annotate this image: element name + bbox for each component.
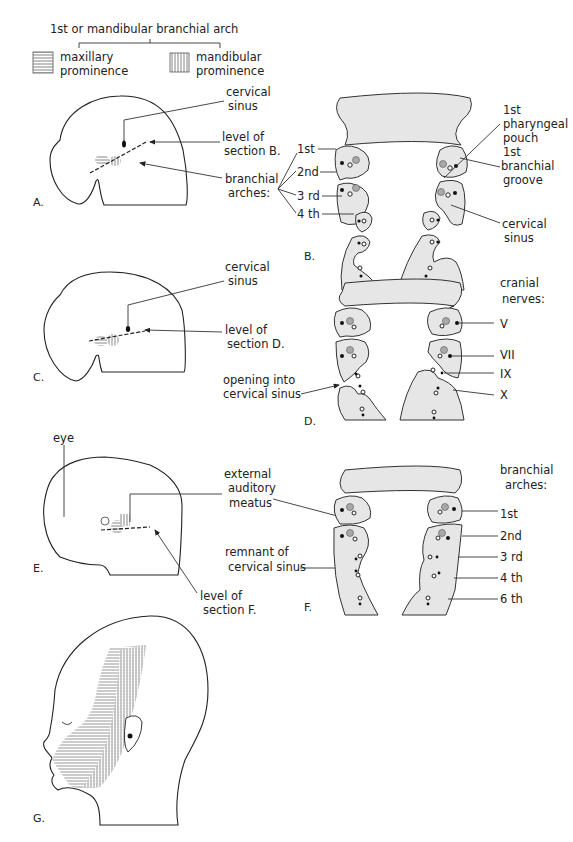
vessel-marker (358, 596, 362, 600)
panel-a-embryo: A. cervical sinus level of section B. br… (33, 85, 297, 213)
a-level-line2: section B. (224, 144, 281, 158)
nerve-marker (355, 373, 358, 376)
panel-d-section: D. cranial nerves: V VII IX X (304, 276, 545, 428)
nerve-marker (360, 275, 363, 278)
d-opening-line2: cervical sinus (223, 387, 301, 401)
mandibular-region-c (107, 334, 119, 346)
nerve-marker (340, 188, 344, 192)
d-opening-leader (301, 385, 339, 394)
c-level-line1: level of (225, 323, 268, 337)
nerve-marker (438, 572, 441, 575)
nerve-marker (359, 603, 362, 606)
f-arch-label: 1st (500, 507, 518, 521)
nerve-marker (436, 240, 439, 243)
vessel-marker (430, 240, 434, 244)
vessel-marker (352, 511, 356, 515)
vessel-marker (440, 324, 444, 328)
vessel-marker (428, 555, 432, 559)
d-nerve-label: X (500, 388, 508, 402)
ganglion-marker (440, 161, 447, 168)
nerve-marker (355, 558, 358, 561)
nerve-marker (448, 354, 452, 358)
f-arch-label: 3 rd (500, 550, 523, 564)
vessel-marker (448, 166, 452, 170)
legend-maxillary-line1: maxillary (60, 50, 113, 64)
e-meatus-line3: meatus (229, 496, 272, 510)
vessel-marker (431, 368, 435, 372)
e-level-line2: section F. (203, 603, 257, 617)
vessel-marker (352, 354, 356, 358)
b-groove-line3: groove (503, 173, 543, 187)
vessel-marker (426, 596, 430, 600)
ganglion-marker (438, 189, 445, 196)
ear-canal-g (128, 734, 133, 739)
legend-mandibular-line2: prominence (196, 64, 264, 78)
nerve-marker (357, 219, 360, 222)
ganglion-marker (353, 185, 360, 192)
a-arches-line2: arches: (228, 186, 270, 200)
b-pouch-line3: pouch (503, 131, 538, 145)
panel-b-section: B. 1st 2nd 3 rd 4 th 1st pharyngeal pouc… (297, 93, 568, 290)
legend-title: 1st or mandibular branchial arch (50, 22, 238, 36)
f-remnant-line2: cervical sinus (228, 560, 306, 574)
arches-fan-lines (278, 153, 297, 213)
panel-a-letter: A. (33, 196, 44, 209)
ganglion-marker (347, 504, 354, 511)
nerve-marker (436, 218, 439, 221)
nerve-marker (355, 570, 358, 573)
vessel-marker (432, 574, 436, 578)
b-pouch-line2: pharyngeal (503, 117, 568, 131)
b-top-mass (337, 93, 472, 145)
panel-f-letter: F. (304, 601, 312, 614)
panel-d-letter: D. (304, 415, 316, 428)
vessel-marker (348, 163, 352, 167)
vessel-marker (434, 391, 438, 395)
b-pouch-line1: 1st (503, 103, 521, 117)
nerve-marker (340, 508, 344, 512)
nerve-marker (453, 191, 457, 195)
nerve-marker (436, 556, 439, 559)
f-arch-label: 6 th (500, 592, 523, 606)
nerve-marker (452, 507, 456, 511)
c-level-line2: section D. (227, 337, 285, 351)
cervical-sinus-a (122, 141, 126, 148)
panel-g-head: G. (33, 616, 208, 825)
maxillary-swatch (33, 52, 53, 73)
d-opening-line1: opening into (223, 373, 295, 387)
e-meatus-line1: external (224, 467, 271, 481)
vessel-marker (362, 242, 366, 246)
vessel-marker (438, 354, 442, 358)
vessel-marker (348, 192, 352, 196)
f-arches-line2: arches: (505, 478, 547, 492)
b-arch-labels: 1st 2nd 3 rd 4 th (297, 142, 320, 221)
vessel-marker (353, 537, 357, 541)
legend: 1st or mandibular branchial arch maxilla… (33, 22, 264, 78)
vessel-marker (432, 410, 436, 414)
vessel-marker (438, 510, 442, 514)
b-arch-label: 1st (297, 142, 315, 156)
d-left-arch2 (336, 339, 369, 382)
b-arch-label: 3 rd (297, 189, 320, 203)
d-nerve-label: VII (500, 348, 515, 362)
ganglion-marker (443, 318, 450, 325)
mandibular-region-e (120, 514, 130, 526)
f-arch-label: 2nd (500, 529, 522, 543)
nerve-marker (427, 603, 430, 606)
b-arch-label: 4 th (297, 207, 320, 221)
vessel-marker (362, 219, 366, 223)
c-cervical-line1: cervical (225, 260, 270, 274)
ganglion-marker (441, 347, 448, 354)
vessel-marker (446, 193, 450, 197)
panel-b-letter: B. (304, 250, 315, 263)
legend-bracket (79, 39, 220, 48)
f-left-arch1 (334, 496, 370, 524)
vessel-marker (361, 390, 365, 394)
panel-e-letter: E. (33, 562, 43, 575)
panel-f-section: F. branchial arches: 1st 2nd 3 rd 4 th 6… (304, 463, 553, 615)
b-groove-line2: branchial (501, 159, 554, 173)
ganglion-marker (347, 530, 354, 537)
nerve-marker (340, 321, 344, 325)
ganglion-marker (353, 157, 360, 164)
d-nerve-label: IX (500, 367, 511, 381)
vessel-marker (360, 407, 364, 411)
